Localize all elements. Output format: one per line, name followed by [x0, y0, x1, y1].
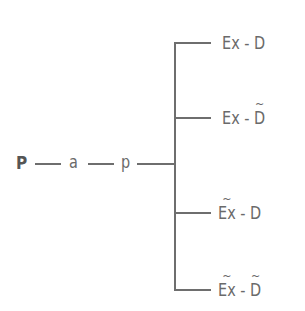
edge-P-a	[35, 163, 61, 165]
leaf-3-separator: -	[240, 203, 245, 223]
branch-trunk	[174, 42, 176, 291]
branch-edge-4	[174, 289, 211, 291]
tilde-mark: ~	[255, 97, 264, 110]
branch-edge-1	[174, 42, 211, 44]
branch-edge-2	[174, 117, 211, 119]
node-p: p	[121, 152, 130, 172]
root-node-P: P	[16, 153, 27, 173]
leaf-extilde-d: ~Ex - D	[218, 203, 261, 223]
leaf-extilde-dtilde: ~Ex - ~D	[218, 280, 261, 300]
leaf-4-left: ~Ex	[218, 280, 236, 300]
leaf-1-left: Ex	[222, 33, 240, 53]
tilde-mark: ~	[251, 269, 260, 282]
tilde-mark: ~	[222, 269, 231, 282]
tree-diagram: P a p Ex - D Ex - ~D ~Ex - D ~Ex - ~D	[0, 0, 305, 311]
leaf-4-right: ~D	[250, 280, 261, 300]
leaf-ex-dtilde: Ex - ~D	[222, 108, 265, 128]
leaf-3-left: ~Ex	[218, 203, 236, 223]
leaf-1-separator: -	[244, 33, 249, 53]
leaf-1-right: D	[254, 33, 265, 53]
node-a: a	[69, 152, 78, 172]
leaf-3-right: D	[250, 203, 261, 223]
edge-a-p	[88, 163, 114, 165]
leaf-4-separator: -	[240, 280, 245, 300]
edge-p-trunk	[137, 163, 176, 165]
leaf-2-left: Ex	[222, 108, 240, 128]
leaf-ex-d: Ex - D	[222, 33, 265, 53]
leaf-2-right: ~D	[254, 108, 265, 128]
leaf-2-separator: -	[244, 108, 249, 128]
tilde-mark: ~	[222, 192, 231, 205]
branch-edge-3	[174, 212, 211, 214]
